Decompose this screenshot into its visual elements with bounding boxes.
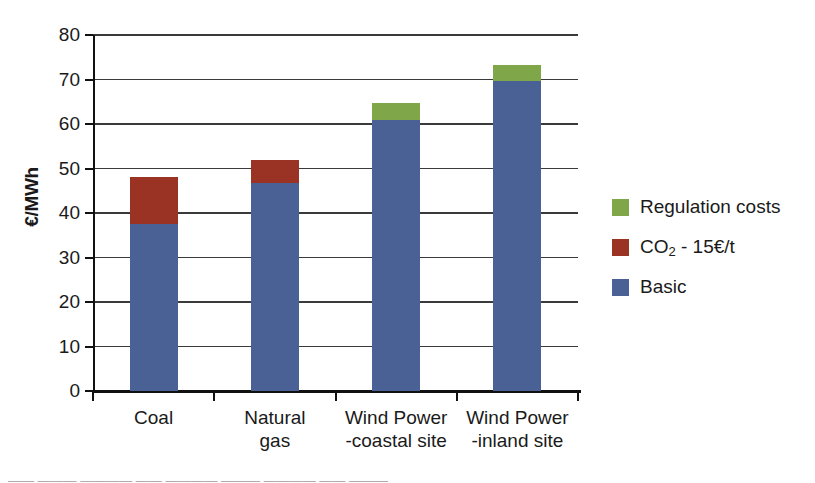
y-axis-tick-label-text: 0 [40, 381, 80, 400]
x-axis-tick-mark [335, 390, 337, 401]
legend-label-suffix: - 15€/t [676, 236, 735, 257]
category-label-line1: Coal [93, 406, 214, 429]
y-axis-tick-label-text: 80 [40, 25, 80, 44]
y-axis-tick-label: 0 [36, 381, 80, 400]
y-axis-title: €/MWh [21, 137, 43, 257]
legend-label-text: Basic [640, 276, 686, 297]
x-axis-tick-mark [213, 390, 215, 401]
x-axis-category-label: Wind Power-coastal site [336, 406, 457, 452]
y-axis-tick-label-text: 60 [40, 114, 80, 133]
bar-segment-basic[interactable] [372, 120, 420, 391]
cropped-caption-artifact: —— ——— ———— —— ———— ——— ———— —— ——— [8, 474, 478, 483]
bar-segment-basic[interactable] [493, 81, 541, 391]
bar-segment-co2[interactable] [130, 177, 178, 224]
y-axis-tick-label: 60 [36, 114, 80, 133]
bar-column[interactable] [372, 35, 420, 391]
category-label-line2: -inland site [457, 429, 578, 452]
category-label-line1: Wind Power [457, 406, 578, 429]
bar-segment-co2[interactable] [251, 160, 299, 183]
category-label-line2: -coastal site [336, 429, 457, 452]
y-axis-tick-label-text: 40 [40, 203, 80, 222]
x-axis-category-label: Naturalgas [214, 406, 335, 452]
legend-item-label: Regulation costs [640, 196, 780, 218]
bar-segment-basic[interactable] [130, 224, 178, 391]
y-axis-tick-label-text: 50 [40, 159, 80, 178]
category-label-line1: Wind Power [336, 406, 457, 429]
legend-label-text: Regulation costs [640, 196, 780, 217]
x-axis-tick-mark [577, 390, 579, 401]
bar-segment-regulation[interactable] [493, 65, 541, 81]
y-axis-tick-label: 70 [36, 70, 80, 89]
x-axis-tick-mark [456, 390, 458, 401]
y-axis-tick-label: 80 [36, 25, 80, 44]
y-axis-tick-label-text: 30 [40, 248, 80, 267]
y-axis-tick-label: 40 [36, 203, 80, 222]
category-label-line1: Natural [214, 406, 335, 429]
x-axis-category-label: Wind Power-inland site [457, 406, 578, 452]
x-axis-tick-mark [92, 390, 94, 401]
y-axis-tick-label: 10 [36, 337, 80, 356]
legend-label-subscript: 2 [669, 244, 676, 259]
category-label-line2: gas [214, 429, 335, 452]
bar-column[interactable] [130, 35, 178, 391]
legend-item-label: CO2 - 15€/t [640, 236, 735, 260]
bar-column[interactable] [251, 35, 299, 391]
energy-cost-stacked-bar-chart: €/MWh 80706050403020100 CoalNaturalgasWi… [0, 0, 815, 483]
legend-item-label: Basic [640, 276, 686, 298]
y-axis-tick-label-text: 10 [40, 337, 80, 356]
y-axis-tick-label: 50 [36, 159, 80, 178]
legend-label-text: CO [640, 236, 669, 257]
y-axis-tick-label-text: 20 [40, 292, 80, 311]
y-axis-tick-label: 20 [36, 292, 80, 311]
y-axis-tick-label-text: 70 [40, 70, 80, 89]
x-axis-category-label: Coal [93, 406, 214, 429]
legend-color-swatch [612, 239, 629, 256]
bar-column[interactable] [493, 35, 541, 391]
bar-segment-basic[interactable] [251, 183, 299, 391]
bar-segment-regulation[interactable] [372, 103, 420, 119]
legend-color-swatch [612, 279, 629, 296]
legend-color-swatch [612, 199, 629, 216]
y-axis-tick-label: 30 [36, 248, 80, 267]
